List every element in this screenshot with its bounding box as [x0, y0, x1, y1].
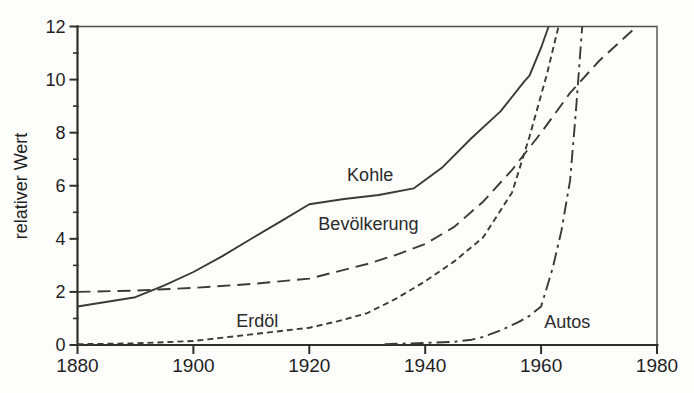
x-tick-label-1960: 1960 [520, 355, 562, 376]
x-tick-label-1900: 1900 [172, 355, 214, 376]
y-axis-title: relativer Wert [11, 133, 31, 240]
x-tick-label-1980: 1980 [636, 355, 678, 376]
series-line-autos [385, 27, 583, 345]
line-chart: 024681012188019001920194019601980relativ… [0, 0, 694, 393]
y-tick-label-6: 6 [55, 176, 65, 196]
x-tick-label-1880: 1880 [56, 355, 98, 376]
y-tick-label-4: 4 [55, 229, 65, 249]
series-line-bevolkerung [78, 27, 637, 292]
series-line-erdol [78, 27, 559, 345]
series-label-kohle: Kohle [347, 165, 393, 185]
scanned-line-chart-figure: 024681012188019001920194019601980relativ… [0, 0, 694, 393]
y-tick-label-12: 12 [45, 17, 65, 37]
series-line-kohle [78, 27, 549, 307]
y-tick-label-0: 0 [55, 335, 65, 355]
series-label-autos: Autos [544, 312, 590, 332]
series-label-bevolkerung: Bevölkerung [318, 214, 418, 234]
x-tick-label-1940: 1940 [404, 355, 446, 376]
y-tick-label-2: 2 [55, 282, 65, 302]
y-tick-label-10: 10 [45, 70, 65, 90]
y-tick-label-8: 8 [55, 123, 65, 143]
x-tick-label-1920: 1920 [288, 355, 330, 376]
series-label-erdol: Erdöl [236, 311, 278, 331]
